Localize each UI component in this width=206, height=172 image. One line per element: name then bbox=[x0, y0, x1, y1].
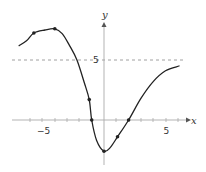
marked-point bbox=[87, 98, 91, 102]
marked-point bbox=[32, 31, 36, 35]
y-tick-label-5: 5 bbox=[93, 55, 99, 65]
marked-point bbox=[116, 135, 120, 139]
y-axis-arrow-icon bbox=[102, 22, 107, 27]
function-plot: x y −5 5 5 bbox=[0, 0, 206, 172]
marked-point bbox=[53, 27, 57, 31]
marked-point bbox=[90, 118, 94, 122]
x-tick-label-5: 5 bbox=[164, 126, 170, 136]
marked-point bbox=[102, 149, 106, 153]
x-tick-label-neg5: −5 bbox=[37, 126, 50, 136]
x-axis-label: x bbox=[191, 115, 197, 126]
marked-point bbox=[127, 118, 131, 122]
y-axis-label: y bbox=[101, 9, 108, 20]
